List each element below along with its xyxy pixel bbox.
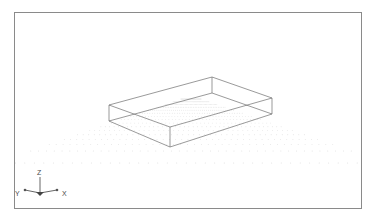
grid-dot bbox=[267, 130, 268, 131]
grid-dot bbox=[160, 134, 161, 135]
grid-dot bbox=[175, 107, 176, 108]
grid-dot bbox=[228, 126, 229, 127]
grid-dot bbox=[179, 110, 180, 111]
grid-dot bbox=[214, 104, 215, 105]
grid-dot bbox=[218, 151, 219, 152]
grid-dot bbox=[273, 151, 274, 152]
grid-dot bbox=[305, 139, 306, 140]
grid-dot bbox=[219, 119, 220, 120]
grid-dot bbox=[287, 134, 288, 135]
grid-dot bbox=[85, 151, 86, 152]
grid-dot bbox=[177, 123, 178, 124]
grid-dot bbox=[239, 113, 240, 114]
grid-dot bbox=[139, 130, 140, 131]
grid-dot bbox=[209, 104, 210, 105]
grid-dot bbox=[148, 151, 149, 152]
grid-dot bbox=[206, 119, 207, 120]
grid-dot bbox=[235, 123, 236, 124]
grid-dot bbox=[262, 139, 263, 140]
grid-dot bbox=[206, 104, 207, 105]
grid-dot bbox=[252, 163, 253, 164]
grid-dot bbox=[180, 104, 181, 105]
grid-dot bbox=[110, 134, 111, 135]
grid-dot bbox=[338, 163, 339, 164]
grid-dot bbox=[192, 101, 193, 102]
grid-dot bbox=[243, 139, 244, 140]
grid-dot bbox=[169, 113, 170, 114]
grid-dot bbox=[243, 163, 244, 164]
grid-dot bbox=[174, 101, 175, 102]
grid-dot bbox=[204, 110, 205, 111]
grid-dot bbox=[131, 126, 132, 127]
grid-dot bbox=[262, 163, 263, 164]
grid-dot bbox=[192, 116, 193, 117]
grid-dot bbox=[182, 134, 183, 135]
grid-dot bbox=[291, 144, 292, 145]
grid-dot bbox=[357, 163, 358, 164]
grid-dot bbox=[236, 119, 237, 120]
grid-dot bbox=[213, 119, 214, 120]
grid-dot bbox=[292, 139, 293, 140]
grid-dot bbox=[196, 101, 197, 102]
grid-dot bbox=[172, 119, 173, 120]
grid-dot bbox=[187, 113, 188, 114]
grid-dot bbox=[204, 116, 205, 117]
grid-dot bbox=[223, 110, 224, 111]
viewport-frame[interactable] bbox=[14, 12, 362, 209]
grid-dot bbox=[227, 123, 228, 124]
grid-dot bbox=[165, 123, 166, 124]
grid-dot bbox=[121, 134, 122, 135]
grid-dot bbox=[184, 104, 185, 105]
grid-dot bbox=[257, 151, 258, 152]
grid-dot bbox=[189, 119, 190, 120]
grid-dot bbox=[312, 144, 313, 145]
grid-dot bbox=[249, 151, 250, 152]
grid-dot bbox=[209, 113, 210, 114]
grid-dot bbox=[190, 107, 191, 108]
grid-dot bbox=[200, 139, 201, 140]
grid-dot bbox=[201, 144, 202, 145]
grid-dot bbox=[170, 107, 171, 108]
grid-dot bbox=[212, 113, 213, 114]
grid-dot bbox=[222, 113, 223, 114]
grid-dot bbox=[192, 110, 193, 111]
grid-dot bbox=[134, 123, 135, 124]
grid-dot bbox=[138, 163, 139, 164]
grid-dot bbox=[93, 151, 94, 152]
grid-dot bbox=[199, 119, 200, 120]
grid-dot bbox=[250, 126, 251, 127]
grid-dot bbox=[173, 107, 174, 108]
grid-dot bbox=[140, 126, 141, 127]
grid-dot bbox=[82, 139, 83, 140]
grid-dot bbox=[158, 119, 159, 120]
grid-dot bbox=[77, 151, 78, 152]
grid-dot bbox=[214, 110, 215, 111]
grid-dot bbox=[53, 163, 54, 164]
grid-dot bbox=[228, 130, 229, 131]
grid-dot bbox=[157, 113, 158, 114]
grid-dot bbox=[215, 107, 216, 108]
grid-dot bbox=[126, 123, 127, 124]
grid-dot bbox=[194, 110, 195, 111]
grid-dot bbox=[182, 119, 183, 120]
grid-dot bbox=[207, 101, 208, 102]
scene-canvas[interactable] bbox=[15, 13, 361, 208]
grid-dot bbox=[108, 151, 109, 152]
grid-dot bbox=[193, 101, 194, 102]
grid-dot bbox=[229, 113, 230, 114]
grid-dot bbox=[195, 107, 196, 108]
grid-dot bbox=[219, 126, 220, 127]
grid-dot bbox=[239, 116, 240, 117]
grid-dot bbox=[245, 126, 246, 127]
grid-dot bbox=[188, 126, 189, 127]
grid-dot bbox=[118, 144, 119, 145]
wireframe-box-model[interactable] bbox=[109, 77, 272, 147]
grid-dot bbox=[94, 130, 95, 131]
grid-dot bbox=[162, 126, 163, 127]
grid-dot bbox=[189, 104, 190, 105]
grid-dot bbox=[163, 107, 164, 108]
grid-dot bbox=[204, 123, 205, 124]
grid-dot bbox=[281, 163, 282, 164]
grid-dot bbox=[62, 163, 63, 164]
grid-dot bbox=[179, 104, 180, 105]
